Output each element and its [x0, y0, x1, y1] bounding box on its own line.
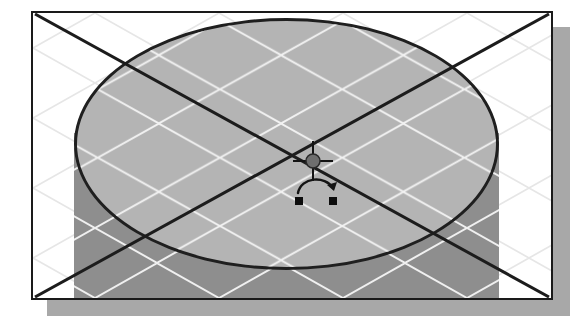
- viewport-canvas[interactable]: [33, 13, 551, 298]
- cylinder-top-cap[interactable]: [74, 18, 499, 270]
- rotate-handle-gizmo[interactable]: [291, 171, 347, 213]
- grid-over-cylinder-top: [77, 21, 496, 267]
- perspective-viewport[interactable]: [31, 11, 553, 300]
- screenshot-stage: [0, 0, 585, 333]
